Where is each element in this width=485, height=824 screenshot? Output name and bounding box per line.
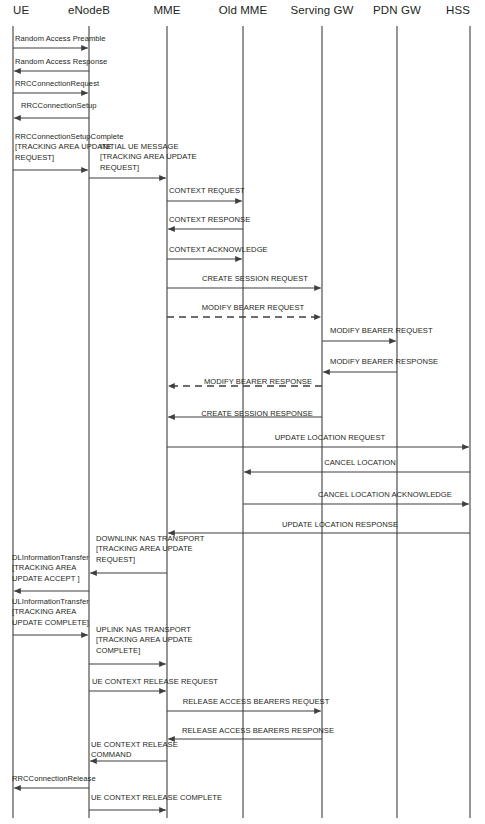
message-label-m22: ULInformationTransfer [TRACKING AREA UPD… <box>12 597 89 628</box>
sequence-diagram: UEeNodeBMMEOld MMEServing GWPDN GWHSS Ra… <box>0 0 485 824</box>
message-label-m21: DLInformationTransfer [TRACKING AREA UPD… <box>12 553 89 584</box>
actor-label-pgw: PDN GW <box>373 4 421 16</box>
actor-label-oldmme: Old MME <box>219 4 268 16</box>
message-label-m10: CREATE SESSION REQUEST <box>202 274 308 284</box>
message-label-m03: RRCConnectionRequest <box>15 79 99 89</box>
message-label-m26: RELEASE ACCESS BEARERS RESPONSE <box>182 726 334 736</box>
message-label-m12: MODIFY BEARER REQUEST <box>330 326 433 336</box>
message-label-m07: CONTEXT REQUEST <box>169 186 245 196</box>
message-label-m29: UE CONTEXT RELEASE COMPLETE <box>91 793 222 803</box>
message-label-m09: CONTEXT ACKNOWLEDGE <box>169 245 268 255</box>
message-label-m23: UPLINK NAS TRANSPORT [TRACKING AREA UPDA… <box>96 625 193 656</box>
message-label-m15: CREATE SESSION RESPONSE <box>201 409 313 419</box>
message-label-m17: CANCEL LOCATION <box>324 458 396 468</box>
message-label-m20: DOWNLINK NAS TRANSPORT [TRACKING AREA UP… <box>96 534 204 565</box>
message-label-m08: CONTEXT RESPONSE <box>169 215 250 225</box>
message-label-m13: MODIFY BEARER RESPONSE <box>330 357 438 367</box>
message-label-m25: RELEASE ACCESS BEARERS REQUEST <box>183 697 330 707</box>
message-label-m28: RRCConnectionRelease <box>12 774 96 784</box>
message-label-m19: UPDATE LOCATION RESPONSE <box>282 520 398 530</box>
actor-label-enodeb: eNodeB <box>68 4 110 16</box>
message-label-m02: Random Access Response <box>15 57 107 67</box>
actor-label-sgw: Serving GW <box>291 4 354 16</box>
message-label-m06: INITIAL UE MESSAGE [TRACKING AREA UPDATE… <box>100 142 197 173</box>
message-label-m04: RRCConnectionSetup <box>21 101 97 111</box>
message-label-m11: MODIFY BEARER REQUEST <box>202 303 305 313</box>
message-label-m16: UPDATE LOCATION REQUEST <box>275 433 386 443</box>
actor-label-hss: HSS <box>446 4 470 16</box>
message-label-m24: UE CONTEXT RELEASE REQUEST <box>92 677 218 687</box>
message-label-m27: UE CONTEXT RELEASE COMMAND <box>91 740 178 761</box>
message-label-m14: MODIFY BEARER RESPONSE <box>204 377 312 387</box>
actor-label-mme: MME <box>153 4 180 16</box>
message-label-m18: CANCEL LOCATION ACKNOWLEDGE <box>318 490 452 500</box>
message-label-m01: Random Access Preamble <box>15 34 106 44</box>
actor-label-ue: UE <box>13 4 29 16</box>
